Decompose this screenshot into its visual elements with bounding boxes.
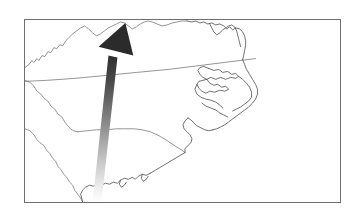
state-borders-group: [25, 21, 256, 202]
state-border-tn-nc: [25, 80, 78, 131]
coastline-albemarle-sound: [198, 66, 239, 79]
map-canvas: [25, 20, 340, 202]
coastline-core-sound: [202, 103, 228, 117]
state-border-nc-sc: [78, 129, 185, 153]
coastline-charleston-harbor: [119, 180, 126, 187]
coastline-cape-lookout: [188, 118, 213, 131]
northward-flow-arrow: [93, 23, 134, 202]
coastline-hatteras-inner: [233, 76, 252, 111]
coastline-sc-grand-strand: [150, 153, 185, 174]
map-figure: [24, 19, 341, 203]
coastline-sc-inlets: [141, 174, 148, 181]
coastline-nc-southern: [183, 118, 192, 153]
screenshot-stage: Carolinas regional map with northward fl…: [0, 0, 359, 219]
coastline-pamlico-sound: [197, 79, 229, 93]
state-border-va-nc: [25, 59, 256, 82]
state-border-ga-sc-savannah-river: [25, 129, 83, 202]
coastline-delmarva-peninsula: [187, 21, 236, 30]
arrow-head: [99, 23, 134, 56]
coastline-sc-lowcountry: [81, 173, 151, 202]
